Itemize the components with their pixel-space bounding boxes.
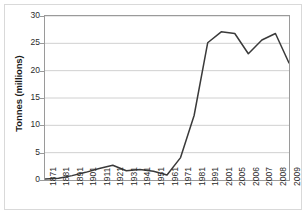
x-tick-label: 1991 [211, 167, 220, 186]
x-tick-label: 1921 [116, 167, 125, 186]
x-tick-label: 2005 [238, 167, 247, 186]
x-tick-label: 1911 [103, 168, 112, 186]
x-tick-label: 1931 [130, 167, 139, 186]
x-tick-label: 1891 [76, 167, 85, 186]
chart-canvas: Tonnes (millions) 051015202530 187118811… [0, 0, 308, 221]
x-tick-label: 1941 [143, 167, 152, 186]
x-tick-label: 2009 [293, 167, 302, 186]
x-tick-label: 1981 [198, 167, 207, 186]
x-tick-label: 1961 [171, 167, 180, 186]
x-tick-label: 1901 [89, 167, 98, 186]
x-tick-label: 1871 [49, 167, 58, 186]
chart-figure: Tonnes (millions) 051015202530 187118811… [0, 0, 308, 221]
x-tick-label: 1881 [62, 167, 71, 186]
x-axis-tick-labels: 1871188118911901191119211931194119511961… [0, 0, 308, 221]
x-tick-label: 2001 [225, 167, 234, 186]
x-tick-label: 2006 [252, 167, 261, 186]
x-tick-label: 2008 [279, 167, 288, 186]
x-tick-label: 2007 [265, 167, 274, 186]
x-tick-label: 1971 [184, 167, 193, 186]
x-tick-label: 1951 [157, 167, 166, 186]
